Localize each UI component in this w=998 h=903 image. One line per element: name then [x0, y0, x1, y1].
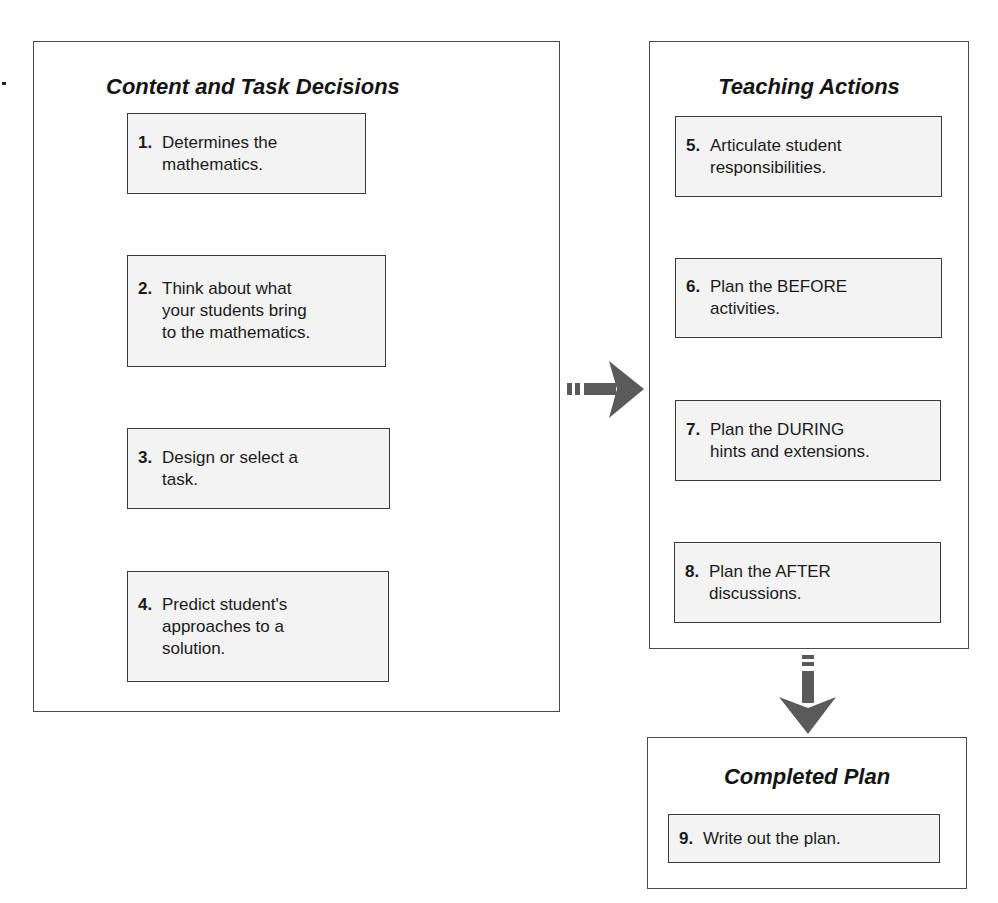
- step-number: 4.: [138, 594, 152, 616]
- step-2-box: 2. Think about what your students bring …: [127, 255, 386, 367]
- teaching-actions-title: Teaching Actions: [650, 74, 968, 100]
- step-number: 1.: [138, 132, 152, 154]
- step-number: 7.: [686, 419, 700, 441]
- step-text-line: discussions.: [709, 583, 831, 605]
- step-text-line: task.: [162, 469, 298, 491]
- step-text-line: Design or select a: [162, 447, 298, 469]
- step-text-line: Think about what: [162, 278, 310, 300]
- step-text-line: Plan the DURING: [710, 419, 870, 441]
- step-3-box: 3. Design or select a task.: [127, 428, 390, 509]
- step-1-box: 1. Determines the mathematics.: [127, 113, 366, 194]
- transition-arrow-down: [779, 655, 836, 734]
- stray-mark: [2, 82, 6, 85]
- step-text-line: your students bring: [162, 300, 310, 322]
- step-text-line: Plan the AFTER: [709, 561, 831, 583]
- step-9-box: 9. Write out the plan.: [668, 814, 940, 863]
- step-text-line: Plan the BEFORE: [710, 276, 847, 298]
- step-text-line: to the mathematics.: [162, 322, 310, 344]
- step-7-box: 7. Plan the DURING hints and extensions.: [675, 400, 941, 481]
- step-6-box: 6. Plan the BEFORE activities.: [675, 258, 942, 338]
- step-number: 6.: [686, 276, 700, 298]
- content-task-title: Content and Task Decisions: [106, 74, 400, 100]
- step-number: 8.: [685, 561, 699, 583]
- step-text-line: hints and extensions.: [710, 441, 870, 463]
- step-text-line: approaches to a: [162, 616, 287, 638]
- step-text-line: Articulate student: [710, 135, 841, 157]
- step-8-box: 8. Plan the AFTER discussions.: [674, 542, 941, 623]
- transition-arrow-right: [567, 361, 644, 418]
- step-text-line: Determines the: [162, 132, 277, 154]
- step-number: 5.: [686, 135, 700, 157]
- step-text-line: responsibilities.: [710, 157, 841, 179]
- completed-plan-title: Completed Plan: [648, 764, 966, 790]
- step-text-line: activities.: [710, 298, 847, 320]
- step-number: 2.: [138, 278, 152, 300]
- step-text-line: mathematics.: [162, 154, 277, 176]
- step-5-box: 5. Articulate student responsibilities.: [675, 116, 942, 197]
- completed-plan-panel: Completed Plan: [647, 737, 967, 889]
- step-4-box: 4. Predict student's approaches to a sol…: [127, 571, 389, 682]
- step-number: 3.: [138, 447, 152, 469]
- step-text-line: Write out the plan.: [703, 828, 841, 850]
- step-text-line: solution.: [162, 638, 287, 660]
- step-text-line: Predict student's: [162, 594, 287, 616]
- step-number: 9.: [679, 828, 693, 850]
